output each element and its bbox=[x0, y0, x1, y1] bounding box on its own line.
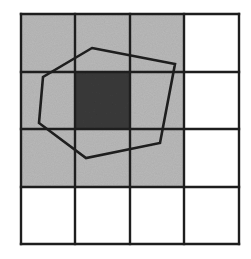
grid-diagram bbox=[0, 0, 251, 259]
grid-cell-dark-gray bbox=[75, 72, 130, 129]
grid-cell-white bbox=[184, 14, 239, 72]
grid-cell-white bbox=[75, 187, 130, 244]
grid-cell-light-gray bbox=[130, 129, 184, 187]
grid-cell-light-gray bbox=[21, 129, 75, 187]
grid-cell-light-gray bbox=[130, 72, 184, 129]
grid-cell-light-gray bbox=[75, 14, 130, 72]
grid-cell-light-gray bbox=[75, 129, 130, 187]
grid-cell-white bbox=[184, 72, 239, 129]
grid-cell-white bbox=[21, 187, 75, 244]
grid-cell-white bbox=[184, 187, 239, 244]
grid-cell-white bbox=[130, 187, 184, 244]
grid-cell-white bbox=[184, 129, 239, 187]
grid-cell-light-gray bbox=[21, 72, 75, 129]
